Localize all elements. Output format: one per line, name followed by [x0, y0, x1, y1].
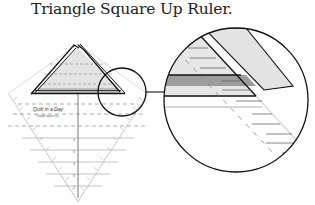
tick-label: 3	[73, 174, 75, 178]
brand-sublabel: Triangle Square Up	[36, 114, 59, 118]
tick-label: 6	[73, 138, 75, 142]
brand-label: Quilt in a Day	[33, 106, 64, 112]
ruler-illustration: 6 5 4 3 2 Quilt in a Day Triangle Square…	[0, 0, 315, 205]
tick-label: 5	[73, 150, 75, 154]
tick-label: 4	[73, 162, 75, 166]
magnified-detail	[160, 25, 315, 185]
